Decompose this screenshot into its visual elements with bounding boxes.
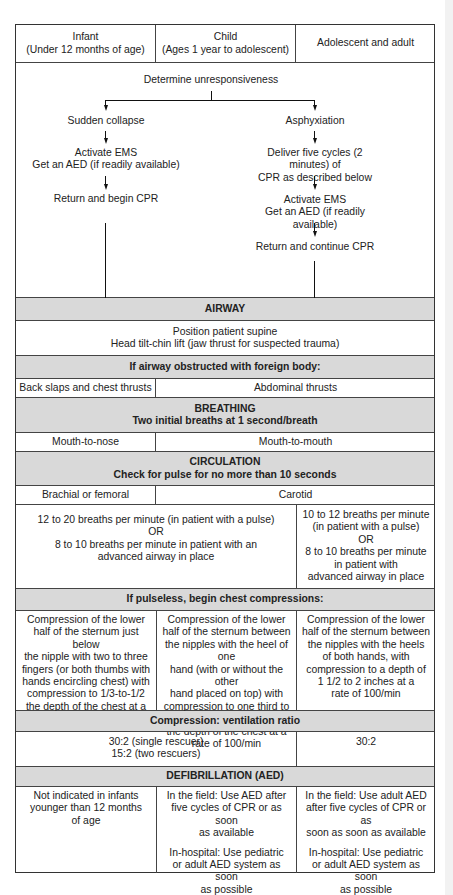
flow-left-return: [105, 223, 106, 303]
airway-body: Position patient supine Head tilt-chin l…: [16, 321, 434, 355]
flow-left-step2: Return and begin CPR: [54, 193, 159, 205]
pulse-site-row: Brachial or femoral Carotid: [16, 486, 434, 505]
airway-heading-row: AIRWAY: [16, 298, 434, 321]
compressions-row: Compression of the lower half of the ste…: [16, 611, 434, 711]
rate-adult: 10 to 12 breaths per minute (in patient …: [297, 505, 435, 588]
ratio-adult: 30:2: [297, 732, 435, 766]
pulse-site-infant: Brachial or femoral: [16, 486, 156, 504]
arrow-down-icon: [313, 105, 317, 111]
ratio-heading-row: Compression: ventilation ratio: [16, 711, 434, 732]
pulse-site-child-adult: Carotid: [156, 486, 435, 504]
defib-heading: DEFIBRILLATION (AED): [16, 767, 434, 786]
arrow-down-icon: [313, 231, 317, 237]
obstructed-infant: Back slaps and chest thrusts: [16, 379, 156, 397]
flow-left-title: Sudden collapse: [68, 115, 145, 127]
header-row: Infant (Under 12 months of age) Child (A…: [16, 25, 434, 63]
obstructed-child-adult: Abdominal thrusts: [156, 379, 435, 397]
compressions-heading: If pulseless, begin chest compressions:: [16, 589, 434, 610]
breathing-row: Mouth-to-nose Mouth-to-mouth: [16, 433, 434, 452]
obstructed-heading: If airway obstructed with foreign body:: [16, 356, 434, 378]
arrow-down-icon: [104, 184, 108, 190]
ratio-infant-child: 30:2 (single rescuer) 15:2 (two rescuers…: [16, 732, 297, 766]
airway-heading: AIRWAY: [16, 298, 434, 320]
breathing-heading-row: BREATHING Two initial breaths at 1 secon…: [16, 398, 434, 433]
flow-left-step1: Activate EMS Get an AED (if readily avai…: [32, 147, 179, 172]
ratio-row: 30:2 (single rescuer) 15:2 (two rescuers…: [16, 732, 434, 767]
header-child: Child (Ages 1 year to adolescent): [156, 25, 296, 62]
obstructed-row: Back slaps and chest thrusts Abdominal t…: [16, 379, 434, 398]
circulation-heading: CIRCULATION Check for pulse for no more …: [16, 452, 434, 485]
header-infant: Infant (Under 12 months of age): [16, 25, 156, 62]
flow-start: Determine unresponsiveness: [144, 74, 279, 86]
flowchart-region: Determine unresponsiveness Sudden collap…: [16, 63, 434, 298]
defib-child-hospital: In-hospital: Use pediatric or adult AED …: [160, 847, 293, 895]
breathing-heading: BREATHING Two initial breaths at 1 secon…: [16, 398, 434, 432]
airway-body-row: Position patient supine Head tilt-chin l…: [16, 321, 434, 356]
breathing-infant: Mouth-to-nose: [16, 433, 156, 451]
compressions-heading-row: If pulseless, begin chest compressions:: [16, 589, 434, 611]
defib-child: In the field: Use AED after five cycles …: [157, 787, 297, 873]
defib-row: Not indicated in infants younger than 12…: [16, 787, 434, 873]
defib-adult-field: In the field: Use adult AED after five c…: [300, 790, 432, 840]
defib-child-field: In the field: Use AED after five cycles …: [160, 790, 293, 840]
arrow-down-icon: [313, 138, 317, 144]
rate-infant-child: 12 to 20 breaths per minute (in patient …: [16, 505, 297, 588]
header-adult: Adolescent and adult: [296, 25, 435, 62]
flow-right-title: Asphyxiation: [286, 115, 345, 127]
rescue-breath-rate-row: 12 to 20 breaths per minute (in patient …: [16, 505, 434, 589]
defib-heading-row: DEFIBRILLATION (AED): [16, 767, 434, 787]
flow-right-step3: Return and continue CPR: [256, 241, 374, 253]
defib-adult: In the field: Use adult AED after five c…: [297, 787, 435, 873]
arrow-down-icon: [313, 184, 317, 190]
compressions-adult: Compression of the lower half of the ste…: [297, 611, 435, 710]
compressions-child: Compression of the lower half of the ste…: [157, 611, 297, 710]
compressions-infant: Compression of the lower half of the ste…: [16, 611, 157, 710]
breathing-child-adult: Mouth-to-mouth: [156, 433, 435, 451]
ratio-heading: Compression: ventilation ratio: [16, 711, 434, 731]
obstructed-heading-row: If airway obstructed with foreign body:: [16, 356, 434, 379]
page-edge: [445, 0, 453, 895]
flow-split-bar: [105, 100, 315, 101]
arrow-down-icon: [104, 105, 108, 111]
flow-right-return: [314, 261, 315, 303]
cpr-guidelines-table: Infant (Under 12 months of age) Child (A…: [15, 24, 435, 873]
defib-adult-hospital: In-hospital: Use pediatric or adult AED …: [300, 847, 432, 895]
arrow-down-icon: [104, 138, 108, 144]
circulation-heading-row: CIRCULATION Check for pulse for no more …: [16, 452, 434, 486]
defib-infant: Not indicated in infants younger than 12…: [16, 787, 157, 873]
